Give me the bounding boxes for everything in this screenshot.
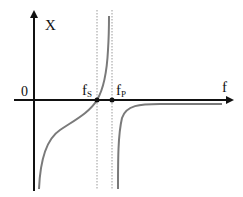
origin-label: 0 xyxy=(21,84,28,99)
x-axis-label: f xyxy=(222,79,227,95)
y-axis-label: X xyxy=(45,17,56,33)
fp-point xyxy=(110,98,115,103)
fs-label-sub: S xyxy=(87,89,92,99)
reactance-diagram: X f 0 fS fP xyxy=(0,0,243,197)
fp-label: fP xyxy=(116,82,126,99)
fs-label: fS xyxy=(82,82,92,99)
reactance-curve-branch-1 xyxy=(39,16,109,189)
reactance-curve-branch-2 xyxy=(118,104,222,189)
fs-point xyxy=(95,98,100,103)
fp-label-sub: P xyxy=(121,89,126,99)
